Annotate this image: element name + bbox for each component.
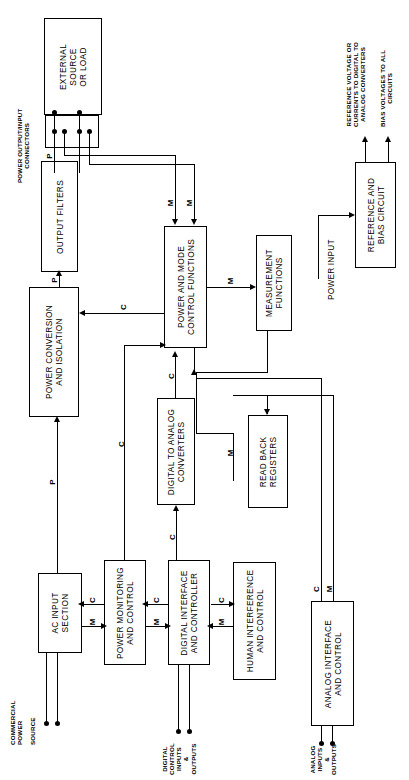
block-label: READ BACK REGISTERS xyxy=(258,436,278,487)
wire-power-input-v xyxy=(318,215,319,279)
wire-m-measurement-turn xyxy=(196,372,268,373)
signal-label-m: M xyxy=(153,619,161,626)
wire-m-sense-2-h xyxy=(89,164,195,165)
block-analog-interface-control: ANALOG INTERFACE AND CONTROL xyxy=(311,601,354,726)
wire-m-ac-to-monitoring xyxy=(82,626,103,627)
block-label: POWER CONVERSION AND ISOLATION xyxy=(44,305,64,399)
wire-digital-io-left xyxy=(178,665,179,731)
signal-label-p: P xyxy=(49,479,57,484)
signal-label-c: C xyxy=(89,597,97,603)
arrowhead-reference-voltage-out xyxy=(362,136,368,142)
signal-label-c: C xyxy=(118,441,126,447)
wire-c-monitoring-bus-v xyxy=(124,345,125,560)
wire-c-monitoring-bus-h xyxy=(124,345,165,346)
signal-label-m: M xyxy=(227,450,235,457)
caption-bias-voltages-note: BIAS VOLTAGES TO ALL CIRCUITS xyxy=(379,50,393,127)
signal-label-c: C xyxy=(153,597,161,603)
signal-label-m: M xyxy=(186,200,194,207)
wire-c-analog-bus xyxy=(321,378,322,602)
wire-m-monitoring-to-dif xyxy=(146,626,167,627)
signal-label-m: M xyxy=(326,586,334,593)
wire-c-analog-bus-turn xyxy=(196,378,322,379)
wire-m-readback-stub xyxy=(233,433,234,481)
block-label: ANALOG INTERFACE AND CONTROL xyxy=(322,619,342,707)
signal-label-m: M xyxy=(227,278,235,285)
connector-dot xyxy=(52,129,57,134)
arrowhead-c-dac-to-pmc xyxy=(172,351,178,357)
arrowhead-p-ac-to-conversion xyxy=(54,416,60,422)
block-label: OUTPUT FILTERS xyxy=(54,180,64,254)
wire-m-measurement-out xyxy=(267,331,268,373)
arrowhead-m-sense-2 xyxy=(191,219,197,225)
wire-m-to-readback-h xyxy=(196,433,234,434)
block-power-monitoring-control: POWER MONITORING AND CONTROL xyxy=(104,560,146,665)
arrowhead-m-human-to-dif xyxy=(207,623,213,629)
wire-ext-source-left xyxy=(54,113,55,173)
wire-digital-io-right xyxy=(189,665,190,731)
block-label: EXTERNAL SOURCE OR LOAD xyxy=(58,43,88,89)
block-human-interference-control: HUMAN INTERFERENCE AND CONTROL xyxy=(233,562,276,680)
signal-label-m: M xyxy=(218,619,226,626)
wire-c-dif-to-monitoring xyxy=(147,604,168,605)
block-label: MEASUREMENT FUNCTIONS xyxy=(264,249,284,317)
wire-m-sense-1-v xyxy=(64,132,65,156)
wire-analog-io-right xyxy=(332,726,333,743)
wire-bias-voltage-out xyxy=(388,139,389,163)
block-reference-bias-circuit: REFERENCE AND BIAS CIRCUIT xyxy=(355,162,396,268)
caption-reference-voltage-note: REFERENCE VOLTAGE OR CURRENTS TO DIGITAL… xyxy=(345,42,366,127)
block-digital-interface-controller: DIGITAL INTERFACE AND CONTROLLER xyxy=(168,560,210,665)
caption-digital-control-io: DIGITAL CONTROL INPUTS & OUTPUTS xyxy=(161,743,197,775)
arrowhead-c-analog-to-pmc xyxy=(191,369,197,375)
wire-power-input-h xyxy=(318,215,350,216)
wire-m-sense-2-drop xyxy=(194,164,195,220)
block-output-filters: OUTPUT FILTERS xyxy=(41,161,78,272)
wire-m-pmc-to-measurement xyxy=(207,287,251,288)
block-label: POWER AND MODE CONTROL FUNCTIONS xyxy=(175,239,195,335)
arrowhead-c-pmc-to-conversion xyxy=(79,310,85,316)
arrowhead-m-readback xyxy=(264,409,270,415)
wire-analog-io-left xyxy=(321,726,322,743)
arrowhead-m-ac-to-monitoring xyxy=(101,623,107,629)
wire-p-ac-to-conversion xyxy=(57,420,58,574)
block-measurement-functions: MEASUREMENT FUNCTIONS xyxy=(256,235,292,331)
block-label: DIGITAL TO ANALOG CONVERTERS xyxy=(166,408,186,494)
block-power-conversion-isolation: POWER CONVERSION AND ISOLATION xyxy=(29,287,79,417)
wire-m-analog-bus-turn xyxy=(233,395,334,396)
arrowhead-m-pmc-to-measurement xyxy=(250,284,256,290)
wire-m-human-to-dif xyxy=(210,626,234,627)
signal-label-c: C xyxy=(313,586,321,592)
caption-power-output-input-connectors: POWER OUTPUT/INPUT CONNECTORS xyxy=(16,109,30,183)
block-diagram-canvas: EXTERNAL SOURCE OR LOAD OUTPUT FILTERS P… xyxy=(0,0,409,780)
block-ac-input-section: AC INPUT SECTION xyxy=(38,573,82,653)
block-digital-to-analog-converters: DIGITAL TO ANALOG CONVERTERS xyxy=(157,398,195,505)
signal-label-m: M xyxy=(89,619,97,626)
arrowhead-c-monitoring-to-ac xyxy=(78,601,84,607)
arrowhead-c-monitoring-bus xyxy=(160,342,166,348)
block-label: HUMAN INTERFERENCE AND CONTROL xyxy=(244,570,264,673)
arrowhead-c-dif-to-dac xyxy=(173,505,179,511)
wire-ext-source-right xyxy=(79,113,80,173)
signal-label-c: C xyxy=(120,304,128,310)
wire-mains-left xyxy=(46,653,47,723)
arrowhead-bias-voltage-out xyxy=(385,136,391,142)
signal-label-c: C xyxy=(169,534,177,540)
wire-m-analog-bus xyxy=(333,395,334,602)
caption-commercial-power-source: COMMERCIAL POWER xyxy=(9,700,23,745)
wire-m-to-readback-v xyxy=(196,372,197,434)
wire-c-monitoring-to-ac xyxy=(83,604,104,605)
wire-m-sense-1-h xyxy=(64,155,176,156)
block-label: REFERENCE AND BIAS CIRCUIT xyxy=(365,178,385,252)
signal-label-c: C xyxy=(218,597,226,603)
arrowhead-c-dif-to-monitoring xyxy=(142,601,148,607)
arrowhead-c-dif-to-human xyxy=(229,601,235,607)
block-label: POWER MONITORING AND CONTROL xyxy=(115,566,135,658)
caption-analog-io: ANALOG INPUTS & OUTPUTS xyxy=(309,744,338,775)
arrowhead-power-input xyxy=(349,212,355,218)
arrowhead-m-monitoring-to-dif xyxy=(165,623,171,629)
wire-mains-right xyxy=(57,653,58,723)
connector-dot xyxy=(77,129,82,134)
block-external-source-or-load: EXTERNAL SOURCE OR LOAD xyxy=(44,18,102,115)
signal-label-c: C xyxy=(168,373,176,379)
signal-label-p: P xyxy=(46,153,54,158)
caption-power-input: POWER INPUT xyxy=(327,239,337,300)
